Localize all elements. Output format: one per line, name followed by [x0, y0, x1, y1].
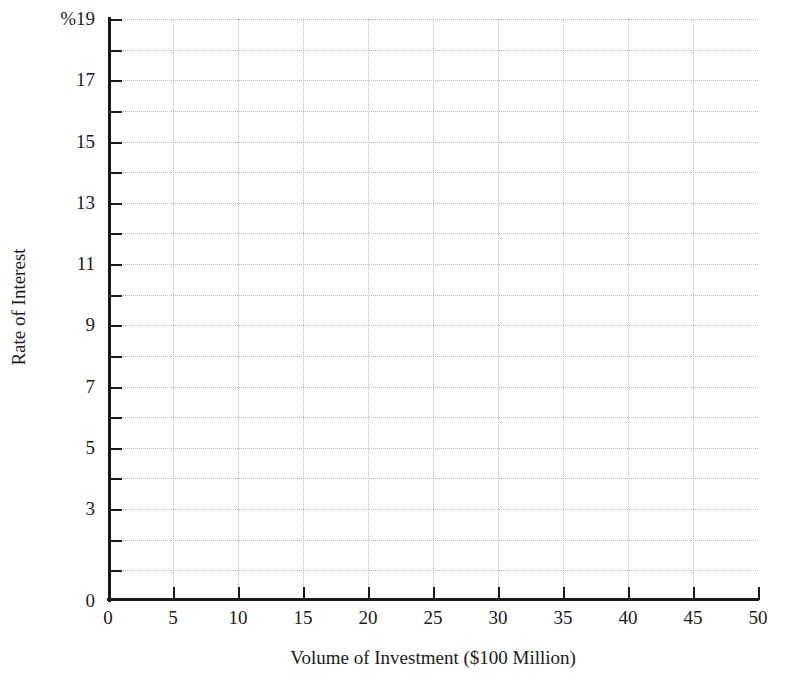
- y-axis-tick-label: 13: [76, 193, 95, 212]
- y-tick-mark: [109, 325, 122, 327]
- y-tick-mark: [109, 19, 122, 21]
- y-tick-mark: [109, 448, 122, 450]
- y-tick-mark: [109, 478, 122, 480]
- y-axis-tick-label: 5: [86, 438, 96, 457]
- y-tick-mark: [109, 50, 122, 52]
- y-tick-mark: [109, 387, 122, 389]
- gridline-vertical: [303, 19, 304, 601]
- y-tick-mark: [109, 233, 122, 235]
- x-axis-tick-label: 40: [619, 607, 638, 629]
- y-tick-mark: [109, 80, 122, 82]
- x-axis-tick-labels: 05101520253035404550: [108, 607, 758, 633]
- x-axis-tick-label: 10: [229, 607, 248, 629]
- y-axis-line: [108, 17, 111, 602]
- y-tick-mark: [109, 142, 122, 144]
- y-tick-mark: [109, 356, 122, 358]
- x-axis-tick-label: 35: [554, 607, 573, 629]
- x-tick-mark: [498, 587, 500, 600]
- y-tick-mark: [109, 264, 122, 266]
- y-tick-mark: [109, 540, 122, 542]
- x-axis-tick-label: 25: [424, 607, 443, 629]
- gridline-vertical: [433, 19, 434, 601]
- gridline-vertical: [628, 19, 629, 601]
- y-tick-mark: [109, 570, 122, 572]
- x-tick-mark: [693, 587, 695, 600]
- gridline-vertical: [693, 19, 694, 601]
- gridline-vertical: [498, 19, 499, 601]
- y-tick-mark: [109, 417, 122, 419]
- y-axis-tick-label: 0: [86, 591, 96, 610]
- y-axis-tick-label: 3: [86, 499, 96, 518]
- x-tick-mark: [303, 587, 305, 600]
- y-tick-mark: [109, 172, 122, 174]
- x-axis-tick-label: 5: [168, 607, 178, 629]
- x-tick-mark: [758, 587, 760, 600]
- investment-rate-chart: Rate of Interest %191715131197530 051015…: [0, 0, 790, 683]
- gridline-vertical: [368, 19, 369, 601]
- y-axis-tick-label: %19: [60, 9, 95, 28]
- x-axis-tick-label: 30: [489, 607, 508, 629]
- x-axis-tick-label: 45: [684, 607, 703, 629]
- y-tick-mark: [109, 111, 122, 113]
- y-axis-tick-label: 15: [76, 132, 95, 151]
- y-tick-mark: [109, 203, 122, 205]
- plot-area: [108, 19, 758, 601]
- x-axis-tick-label: 0: [103, 607, 113, 629]
- x-axis-tick-label: 20: [359, 607, 378, 629]
- gridlines: [108, 19, 758, 601]
- x-tick-mark: [433, 587, 435, 600]
- x-tick-mark: [173, 587, 175, 600]
- y-axis-tick-label: 17: [76, 70, 95, 89]
- gridline-vertical: [563, 19, 564, 601]
- y-axis-tick-label: 7: [86, 377, 96, 396]
- gridline-vertical: [173, 19, 174, 601]
- gridline-vertical: [238, 19, 239, 601]
- x-tick-mark: [563, 587, 565, 600]
- x-tick-mark: [238, 587, 240, 600]
- y-axis-tick-label: 11: [77, 254, 95, 273]
- y-axis-tick-label: 9: [86, 315, 96, 334]
- x-tick-mark: [368, 587, 370, 600]
- x-tick-mark: [628, 587, 630, 600]
- y-tick-mark: [109, 509, 122, 511]
- y-axis-tick-labels: %191715131197530: [0, 19, 95, 601]
- y-tick-mark: [109, 295, 122, 297]
- x-axis-title: Volume of Investment ($100 Million): [108, 646, 758, 670]
- x-axis-tick-label: 15: [294, 607, 313, 629]
- x-axis-tick-label: 50: [749, 607, 768, 629]
